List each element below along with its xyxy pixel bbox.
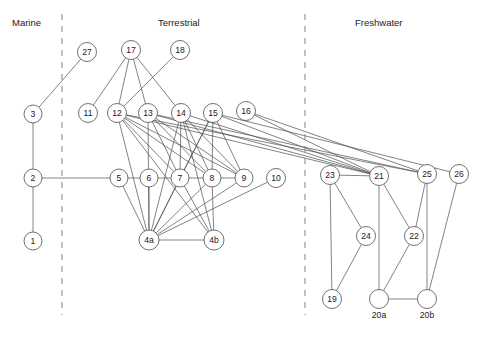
node-22[interactable]: 22 [405,227,424,246]
node-label-8: 8 [210,173,215,183]
node-label-14: 14 [176,108,186,118]
node-label-13: 13 [143,108,153,118]
edge-23-19 [330,185,332,290]
edge-3-27 [39,59,81,107]
node-14[interactable]: 14 [172,104,191,123]
node-label-26: 26 [454,169,464,179]
node-layer: 12327111718121314151656789104a4b23212526… [24,41,469,320]
node-25[interactable]: 25 [418,165,437,184]
node-2[interactable]: 2 [24,169,42,187]
edge-14-7 [180,123,181,170]
node-12[interactable]: 12 [108,104,127,123]
node-11[interactable]: 11 [79,104,98,123]
node-26[interactable]: 26 [450,165,469,184]
edge-23-21 [340,175,370,176]
node-18[interactable]: 18 [171,41,190,60]
node-23[interactable]: 23 [321,166,340,185]
node-label-11: 11 [84,108,93,118]
node-caption-20a: 20a [372,310,387,320]
node-label-2: 2 [31,173,36,183]
node-label-25: 25 [422,169,432,179]
node-5[interactable]: 5 [110,169,128,187]
edge-15-21 [222,116,370,172]
node-label-3: 3 [31,109,36,119]
node-circle-20b[interactable] [418,290,437,309]
edge-17-14 [137,57,175,105]
edge-8-4a [156,184,205,233]
node-label-1: 1 [31,236,36,246]
network-svg: 12327111718121314151656789104a4b23212526… [0,0,483,339]
node-label-10: 10 [271,173,281,183]
node-label-22: 22 [409,231,419,241]
node-label-7: 7 [178,173,183,183]
node-label-15: 15 [208,108,218,118]
node-20a[interactable]: 20a [370,290,389,320]
edge-25-22 [416,183,425,226]
edge-23-24 [335,183,361,228]
edge-15-26 [222,115,450,171]
terrestrial-label: Terrestrial [158,17,200,28]
node-label-24: 24 [361,231,371,241]
node-21[interactable]: 21 [370,167,389,186]
node-24[interactable]: 24 [357,227,376,246]
node-19[interactable]: 19 [323,290,342,309]
node-label-21: 21 [374,171,384,181]
node-label-19: 19 [327,294,337,304]
node-10[interactable]: 10 [267,169,286,188]
node-4a[interactable]: 4a [139,230,159,250]
node-27[interactable]: 27 [78,43,97,62]
marine-label: Marine [12,17,41,28]
node-label-16: 16 [241,106,251,116]
edge-17-11 [93,58,125,105]
node-circle-20a[interactable] [370,290,389,309]
node-label-4a: 4a [144,235,154,245]
node-8[interactable]: 8 [203,169,221,187]
edge-18-12 [124,57,174,107]
node-label-27: 27 [82,47,92,57]
edge-13-25 [157,115,417,172]
node-label-9: 9 [242,173,247,183]
node-6[interactable]: 6 [140,169,158,187]
node-1[interactable]: 1 [24,232,42,250]
edge-21-22 [384,184,409,228]
node-13[interactable]: 13 [139,104,158,123]
node-label-17: 17 [126,45,136,55]
node-label-4b: 4b [209,235,219,245]
node-16[interactable]: 16 [237,102,256,121]
node-9[interactable]: 9 [235,169,253,187]
network-diagram-canvas: 12327111718121314151656789104a4b23212526… [0,0,483,339]
node-3[interactable]: 3 [24,105,42,123]
node-7[interactable]: 7 [171,169,189,187]
node-20b[interactable]: 20b [418,290,437,320]
node-label-18: 18 [175,45,185,55]
freshwater-label: Freshwater [355,17,403,28]
node-label-6: 6 [147,173,152,183]
node-4b[interactable]: 4b [204,230,224,250]
node-15[interactable]: 15 [204,104,223,123]
node-label-23: 23 [325,170,335,180]
edge-15-9 [217,122,240,170]
node-label-12: 12 [112,108,122,118]
edge-24-19 [337,244,362,290]
node-label-5: 5 [117,173,122,183]
node-17[interactable]: 17 [122,41,141,60]
edge-26-20b [429,183,456,290]
edge-12-8 [125,118,205,173]
node-caption-20b: 20b [420,310,435,320]
edge-22-20a [384,244,410,290]
